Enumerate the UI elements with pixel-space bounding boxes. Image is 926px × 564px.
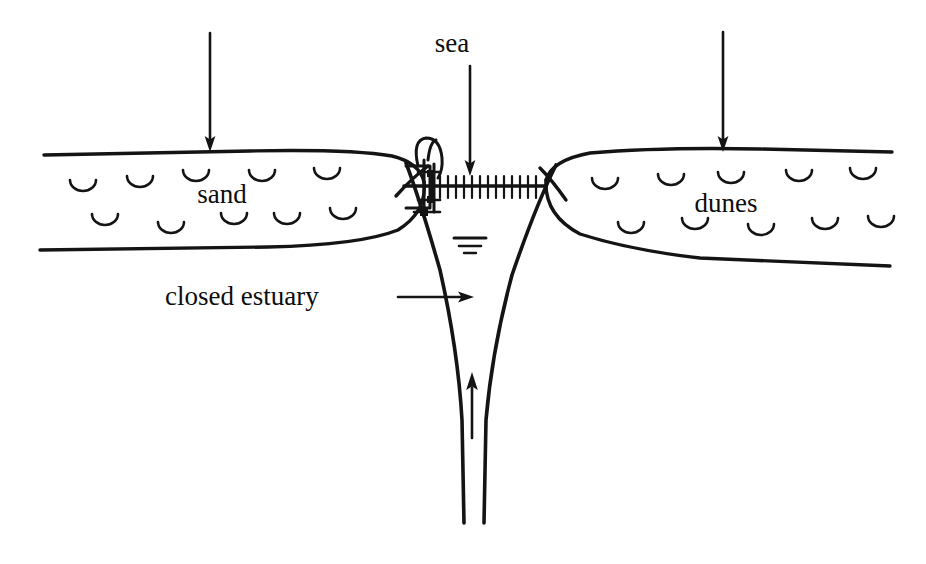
sea-label: sea xyxy=(435,28,469,58)
dunes-label: dunes xyxy=(695,188,758,218)
estuary-channel xyxy=(406,163,556,523)
left-dune-arrow xyxy=(205,33,216,152)
sea-arrow xyxy=(465,66,476,176)
right-dune-arrow xyxy=(718,32,729,152)
closed-estuary-label: closed estuary xyxy=(165,281,319,311)
water-level-symbol xyxy=(454,238,486,253)
estuary-diagram-svg: sea xyxy=(0,0,926,564)
closed-estuary-pointer-arrow xyxy=(398,292,474,303)
channel-flow-arrow xyxy=(466,372,478,438)
sand-label: sand xyxy=(197,179,247,209)
diagram-canvas: sea xyxy=(0,0,926,564)
